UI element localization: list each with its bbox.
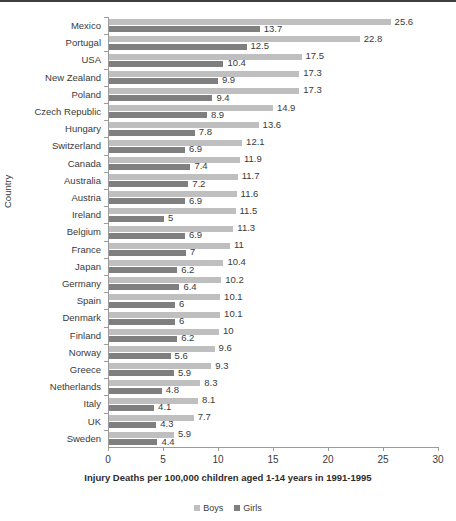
y-axis-title: Country (2, 175, 13, 208)
value-label-girls: 4.4 (161, 436, 174, 447)
bar-girls (109, 422, 156, 428)
value-label-girls: 6.2 (181, 264, 194, 275)
value-label-girls: 10.4 (227, 57, 246, 68)
category-label: New Zealand (45, 71, 101, 84)
value-label-boys: 10.4 (227, 256, 246, 267)
bar-boys (109, 36, 360, 42)
category-label: Greece (70, 363, 101, 376)
value-label-boys: 10.1 (224, 308, 243, 319)
bar-girls (109, 319, 175, 325)
bar-girls (109, 302, 175, 308)
legend-label: Boys (203, 503, 223, 513)
bar-boys (109, 226, 233, 232)
bar-row: Mexico25.613.7 (108, 17, 438, 34)
bar-row: USA17.510.4 (108, 51, 438, 68)
value-label-boys: 8.3 (204, 377, 217, 388)
bar-girls (109, 78, 218, 84)
bar-boys (109, 122, 259, 128)
bar-row: Netherlands8.34.8 (108, 378, 438, 395)
value-label-girls: 8.9 (211, 109, 224, 120)
bar-boys (109, 363, 211, 369)
bar-row: Portugal22.812.5 (108, 34, 438, 51)
x-axis-tick-label: 15 (267, 454, 278, 465)
value-label-boys: 9.6 (219, 342, 232, 353)
bar-girls (109, 233, 185, 239)
bar-girls (109, 267, 177, 273)
legend-item-girls[interactable]: Girls (234, 503, 262, 513)
value-label-girls: 6 (179, 298, 184, 309)
category-label: Poland (71, 88, 101, 101)
bar-girls (109, 198, 185, 204)
value-label-boys: 11.3 (237, 222, 255, 233)
value-label-girls: 6.2 (181, 332, 194, 343)
bar-row: Switzerland12.16.9 (108, 137, 438, 154)
value-label-boys: 17.3 (303, 84, 322, 95)
y-axis-tick (104, 292, 108, 293)
y-axis-tick (104, 327, 108, 328)
bar-boys (109, 191, 237, 197)
bar-row: Denmark10.16 (108, 309, 438, 326)
category-label: Mexico (71, 19, 101, 32)
bar-boys (109, 277, 221, 283)
bar-boys (109, 312, 220, 318)
y-axis-tick (104, 275, 108, 276)
value-label-girls: 7.8 (199, 126, 212, 137)
value-label-girls: 6.9 (189, 229, 202, 240)
x-axis-tick-label: 25 (377, 454, 388, 465)
category-label: USA (81, 53, 101, 66)
y-axis-tick (104, 86, 108, 87)
value-label-girls: 4.8 (166, 384, 179, 395)
bar-girls (109, 284, 179, 290)
y-axis-tick (104, 17, 108, 18)
value-label-girls: 4.3 (160, 418, 173, 429)
value-label-boys: 17.3 (303, 67, 322, 78)
bar-boys (109, 329, 219, 335)
bar-girls (109, 181, 188, 187)
y-axis-tick (104, 258, 108, 259)
bar-row: Japan10.46.2 (108, 258, 438, 275)
value-label-boys: 10.2 (225, 274, 244, 285)
bar-boys (109, 157, 240, 163)
bar-boys (109, 88, 299, 94)
bar-boys (109, 380, 200, 386)
value-label-girls: 6.4 (183, 281, 196, 292)
bar-row: Spain10.16 (108, 292, 438, 309)
category-label: UK (88, 415, 101, 428)
plot-area: Mexico25.613.7Portugal22.812.5USA17.510.… (108, 17, 438, 447)
bar-girls (109, 112, 207, 118)
bar-row: Sweden5.94.4 (108, 430, 438, 447)
value-label-boys: 8.1 (202, 394, 215, 405)
category-label: Norway (69, 346, 101, 359)
value-label-boys: 11.5 (240, 205, 258, 216)
y-axis-tick (104, 69, 108, 70)
bar-girls (109, 61, 223, 67)
bar-boys (109, 398, 198, 404)
bar-row: Austria11.66.9 (108, 189, 438, 206)
bar-row: New Zealand17.39.9 (108, 69, 438, 86)
bar-boys (109, 174, 238, 180)
y-axis-tick (104, 120, 108, 121)
value-label-boys: 11.7 (242, 170, 260, 181)
value-label-girls: 6 (179, 315, 184, 326)
x-axis-tick (218, 447, 219, 451)
category-label: Switzerland (52, 139, 101, 152)
bar-girls (109, 95, 212, 101)
legend-label: Girls (243, 503, 262, 513)
value-label-girls: 13.7 (264, 23, 283, 34)
category-label: Australia (64, 174, 101, 187)
category-label: Austria (71, 191, 101, 204)
value-label-boys: 9.3 (215, 360, 228, 371)
y-axis-tick (104, 223, 108, 224)
legend-item-boys[interactable]: Boys (194, 503, 223, 513)
x-axis-tick-label: 20 (322, 454, 333, 465)
value-label-boys: 11 (234, 239, 244, 250)
y-axis-tick (104, 344, 108, 345)
bar-boys (109, 140, 242, 146)
value-label-boys: 13.6 (263, 119, 282, 130)
bar-girls (109, 405, 154, 411)
bar-boys (109, 54, 302, 60)
bar-row: Hungary13.67.8 (108, 120, 438, 137)
value-label-boys: 7.7 (198, 411, 211, 422)
value-label-boys: 5.9 (178, 428, 191, 439)
y-axis-tick (104, 378, 108, 379)
